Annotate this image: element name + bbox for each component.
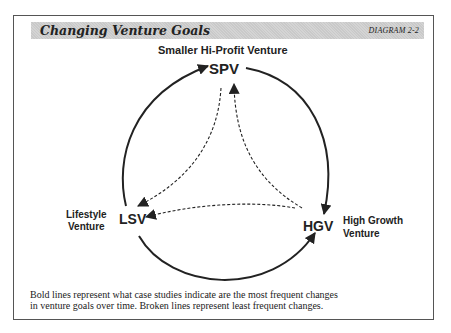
dashed-arrow-spv-to-lsv (138, 88, 221, 206)
lsv-node: LSV (119, 211, 146, 227)
dashed-arrow-hgv-to-lsv (146, 204, 295, 217)
lsv-description-line1: Lifestyle (66, 209, 107, 221)
hgv-node: HGV (303, 218, 333, 234)
hgv-description-line1: High Growth (343, 215, 403, 227)
bold-arrow-lsv-to-spv (123, 66, 208, 206)
hgv-description-line2: Venture (343, 228, 380, 240)
caption-line-2: in venture goals over time. Broken lines… (30, 300, 430, 311)
diagram-caption: Bold lines represent what case studies i… (30, 289, 430, 311)
caption-line-1: Bold lines represent what case studies i… (30, 289, 430, 300)
spv-description: Smaller Hi-Profit Venture (158, 44, 288, 56)
spv-node: SPV (209, 60, 239, 77)
bold-arrow-lsv-to-hgv (139, 233, 315, 280)
dashed-arrow-hgv-to-spv (234, 84, 302, 208)
bold-arrow-spv-to-hgv (246, 68, 328, 214)
lsv-description-line2: Venture (68, 221, 105, 233)
